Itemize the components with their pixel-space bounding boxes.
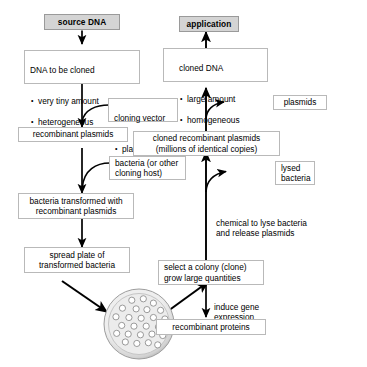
chemical-lyse-text: chemical to lyse bacteria and release pl…	[216, 218, 307, 239]
colony	[113, 314, 119, 320]
node-plasmids[interactable]: plasmids	[273, 95, 327, 110]
colony	[137, 332, 143, 338]
colony	[134, 340, 140, 346]
bacteria-host-label: bacteria (or other cloning host)	[115, 158, 180, 179]
application-label: application	[187, 19, 232, 30]
node-dna-to-be-cloned[interactable]: DNA to be cloned very tiny amount hetero…	[24, 50, 140, 84]
colony	[158, 307, 164, 313]
connector-lysed-bacteria	[206, 172, 226, 193]
recombinant-plasmids-label: recombinant plasmids	[33, 129, 114, 140]
colony	[126, 314, 132, 320]
select-colony-label: select a colony (clone) grow large quant…	[164, 262, 258, 283]
colony	[114, 330, 120, 336]
bullet-item: homogeneous	[179, 115, 262, 126]
label-induce-gene-expression: induce gene expression	[214, 291, 284, 323]
colony	[150, 300, 156, 306]
bacteria-transformed-label: bacteria transformed with recombinant pl…	[29, 196, 122, 217]
node-cloned-dna[interactable]: cloned DNA large amount homogeneous	[163, 48, 268, 82]
colony	[145, 340, 151, 346]
dna-to-be-cloned-title: DNA to be cloned	[30, 65, 134, 76]
cloning-workflow-diagram: source DNA DNA to be cloned very tiny am…	[0, 0, 367, 367]
node-bacteria-transformed[interactable]: bacteria transformed with recombinant pl…	[18, 193, 134, 219]
colony	[119, 305, 125, 311]
colony	[140, 296, 146, 302]
colony	[125, 331, 131, 337]
bullet-item: large amount	[179, 94, 262, 105]
cloning-vector-title: cloning vector	[114, 113, 172, 124]
arrow-spread-plate-to-dish	[62, 281, 107, 312]
colony	[155, 342, 161, 348]
cloned-recombinant-plasmids-label: cloned recombinant plasmids (millions of…	[153, 133, 260, 154]
spread-plate-label: spread plate of transformed bacteria	[39, 250, 115, 271]
node-recombinant-proteins[interactable]: recombinant proteins	[156, 319, 266, 335]
plasmids-label: plasmids	[284, 97, 317, 108]
colony	[131, 323, 137, 329]
node-application[interactable]: application	[179, 16, 239, 32]
colony	[143, 323, 149, 329]
node-cloned-recombinant-plasmids[interactable]: cloned recombinant plasmids (millions of…	[133, 131, 280, 156]
node-select-colony[interactable]: select a colony (clone) grow large quant…	[158, 260, 264, 285]
cloned-dna-bullets: large amount homogeneous	[169, 84, 262, 137]
recombinant-proteins-label: recombinant proteins	[172, 322, 249, 333]
colony	[129, 297, 135, 303]
lysed-bacteria-label: lysed bacteria	[281, 163, 309, 184]
colony	[144, 307, 150, 313]
node-cloning-vector[interactable]: cloning vector plasmids	[108, 98, 178, 122]
colony	[138, 315, 144, 321]
node-recombinant-plasmids[interactable]: recombinant plasmids	[18, 127, 128, 142]
node-source-dna[interactable]: source DNA	[44, 14, 120, 30]
colony	[122, 339, 128, 345]
colony	[149, 331, 155, 337]
colony	[119, 322, 125, 328]
node-lysed-bacteria[interactable]: lysed bacteria	[275, 161, 315, 185]
source-dna-label: source DNA	[58, 17, 107, 28]
label-chemical-lyse: chemical to lyse bacteria and release pl…	[216, 207, 346, 239]
cloned-dna-title: cloned DNA	[169, 63, 262, 74]
colony	[133, 306, 139, 312]
node-spread-plate[interactable]: spread plate of transformed bacteria	[24, 247, 130, 273]
connector-bacteria-host	[82, 163, 110, 187]
node-bacteria-host[interactable]: bacteria (or other cloning host)	[109, 156, 186, 180]
